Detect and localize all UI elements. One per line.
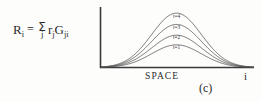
equation-lhs-subscript: i bbox=[22, 29, 24, 39]
equation-term-g-subscript: ji bbox=[64, 29, 69, 39]
curve-label-t3: t=3 bbox=[173, 24, 180, 30]
equation-lhs: Ri bbox=[13, 23, 24, 36]
curve-label-t2: t=2 bbox=[173, 34, 180, 40]
equation-lhs-variable: R bbox=[13, 22, 22, 37]
equation-term-r: rj bbox=[48, 23, 55, 36]
equation-term-g-variable: G bbox=[55, 22, 64, 37]
curve-label-t1: t=1 bbox=[173, 44, 180, 50]
equation-equals-sign: = bbox=[27, 23, 34, 35]
curve-label-group: t=1t=2t=3t=4 bbox=[173, 13, 180, 50]
gaussian-curves-plot: t=1t=2t=3t=4 bbox=[96, 4, 256, 76]
summation-operator: Σ j bbox=[38, 21, 46, 40]
plot-svg-canvas: t=1t=2t=3t=4 bbox=[96, 4, 256, 76]
curve-label-t4: t=4 bbox=[173, 13, 180, 19]
equation-expression: Ri = Σ j rj Gji bbox=[13, 20, 68, 39]
summation-index: j bbox=[41, 31, 44, 39]
figure-panel-c: Ri = Σ j rj Gji t=1t=2t=3t=4 SPACE i (c) bbox=[0, 0, 261, 102]
x-axis-label: SPACE bbox=[145, 71, 179, 81]
curve-series-group bbox=[101, 13, 254, 67]
equation-term-g: Gji bbox=[55, 23, 69, 36]
x-axis-end-label: i bbox=[244, 70, 247, 82]
panel-label: (c) bbox=[199, 81, 212, 96]
